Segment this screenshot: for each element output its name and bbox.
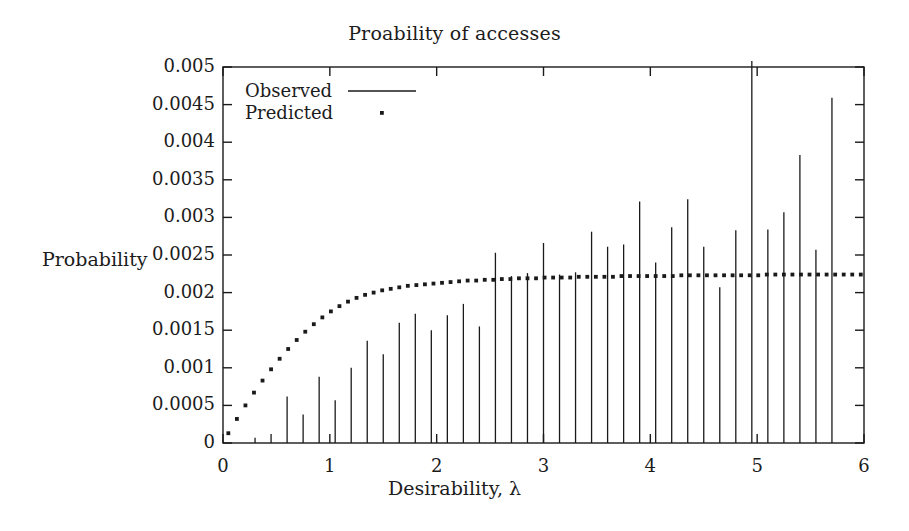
- predicted-dot: [252, 391, 256, 395]
- predicted-dot: [645, 274, 649, 278]
- predicted-dot: [697, 273, 701, 277]
- predicted-dot: [748, 273, 752, 277]
- x-tick-label: 2: [417, 455, 457, 476]
- predicted-dot: [534, 276, 538, 280]
- predicted-dot: [842, 273, 846, 277]
- predicted-dot: [526, 276, 530, 280]
- predicted-dot: [620, 274, 624, 278]
- predicted-dot: [833, 273, 837, 277]
- y-tick-label: 0.005: [130, 55, 215, 76]
- predicted-dot: [303, 330, 307, 334]
- predicted-dot: [286, 347, 290, 351]
- predicted-dot: [782, 273, 786, 277]
- predicted-dot: [594, 275, 598, 279]
- predicted-dot: [585, 275, 589, 279]
- predicted-dot: [269, 367, 273, 371]
- predicted-dot: [483, 278, 487, 282]
- y-tick-label: 0.001: [130, 356, 215, 377]
- predicted-dot: [654, 274, 658, 278]
- predicted-dot: [722, 273, 726, 277]
- predicted-dot: [816, 273, 820, 277]
- predicted-dot: [679, 273, 683, 277]
- predicted-dot: [637, 274, 641, 278]
- predicted-dot: [808, 273, 812, 277]
- predicted-dot: [235, 417, 239, 421]
- predicted-dot: [508, 277, 512, 281]
- x-tick-label: 4: [630, 455, 670, 476]
- x-tick-label: 5: [737, 455, 777, 476]
- predicted-dot: [825, 273, 829, 277]
- x-tick-label: 0: [203, 455, 243, 476]
- predicted-dot: [457, 279, 461, 283]
- x-tick-label: 3: [524, 455, 564, 476]
- predicted-dot: [474, 279, 478, 283]
- predicted-dot: [414, 283, 418, 287]
- predicted-dot: [628, 274, 632, 278]
- predicted-dot: [320, 316, 324, 320]
- predicted-dot: [568, 276, 572, 280]
- y-tick-label: 0.0045: [130, 93, 215, 114]
- predicted-dot: [756, 273, 760, 277]
- predicted-dot: [543, 276, 547, 280]
- predicted-dot: [261, 379, 265, 383]
- y-tick-label: 0.0025: [130, 243, 215, 264]
- predicted-dot: [799, 273, 803, 277]
- predicted-dot: [355, 296, 359, 300]
- predicted-dot: [449, 280, 453, 284]
- predicted-dot: [278, 357, 282, 361]
- y-tick-label: 0.004: [130, 130, 215, 151]
- predicted-dot: [244, 404, 248, 408]
- legend-key-predicted: [380, 111, 384, 115]
- predicted-dot: [346, 300, 350, 304]
- predicted-dot: [517, 276, 521, 280]
- series-observed: [255, 61, 832, 443]
- predicted-dot: [859, 273, 863, 277]
- predicted-dot: [662, 274, 666, 278]
- predicted-dot: [688, 273, 692, 277]
- predicted-dot: [312, 322, 316, 326]
- legend-label-observed: Observed: [245, 80, 332, 101]
- predicted-dot: [440, 281, 444, 285]
- predicted-dot: [363, 293, 367, 297]
- predicted-dot: [560, 276, 564, 280]
- predicted-dot: [432, 282, 436, 286]
- predicted-dot: [551, 276, 555, 280]
- y-tick-label: 0.0015: [130, 318, 215, 339]
- y-tick-label: 0.0005: [130, 393, 215, 414]
- predicted-dot: [491, 278, 495, 282]
- legend-keys: [348, 91, 416, 115]
- predicted-dot: [739, 273, 743, 277]
- y-tick-label: 0.002: [130, 281, 215, 302]
- predicted-dot: [338, 304, 342, 308]
- predicted-dot: [773, 273, 777, 277]
- predicted-dot: [372, 291, 376, 295]
- predicted-dot: [329, 310, 333, 314]
- predicted-dot: [602, 275, 606, 279]
- x-tick-label: 6: [844, 455, 884, 476]
- predicted-dot: [577, 275, 581, 279]
- predicted-dot: [500, 277, 504, 281]
- predicted-dot: [389, 287, 393, 291]
- predicted-dot: [671, 274, 675, 278]
- predicted-dot: [705, 273, 709, 277]
- predicted-dot: [466, 279, 470, 283]
- predicted-dot: [380, 288, 384, 292]
- predicted-dot: [423, 282, 427, 286]
- y-tick-label: 0: [130, 431, 215, 452]
- predicted-dot: [765, 273, 769, 277]
- x-tick-label: 1: [310, 455, 350, 476]
- predicted-dot: [226, 431, 230, 435]
- predicted-dot: [791, 273, 795, 277]
- y-tick-label: 0.0035: [130, 168, 215, 189]
- predicted-dot: [731, 273, 735, 277]
- legend-label-predicted: Predicted: [245, 102, 333, 123]
- predicted-dot: [850, 273, 854, 277]
- chart-figure: Proability of accesses Probability Desir…: [0, 0, 909, 531]
- predicted-dot: [611, 275, 615, 279]
- y-tick-label: 0.003: [130, 205, 215, 226]
- predicted-dot: [714, 273, 718, 277]
- predicted-dot: [406, 284, 410, 288]
- predicted-dot: [397, 285, 401, 289]
- predicted-dot: [295, 338, 299, 342]
